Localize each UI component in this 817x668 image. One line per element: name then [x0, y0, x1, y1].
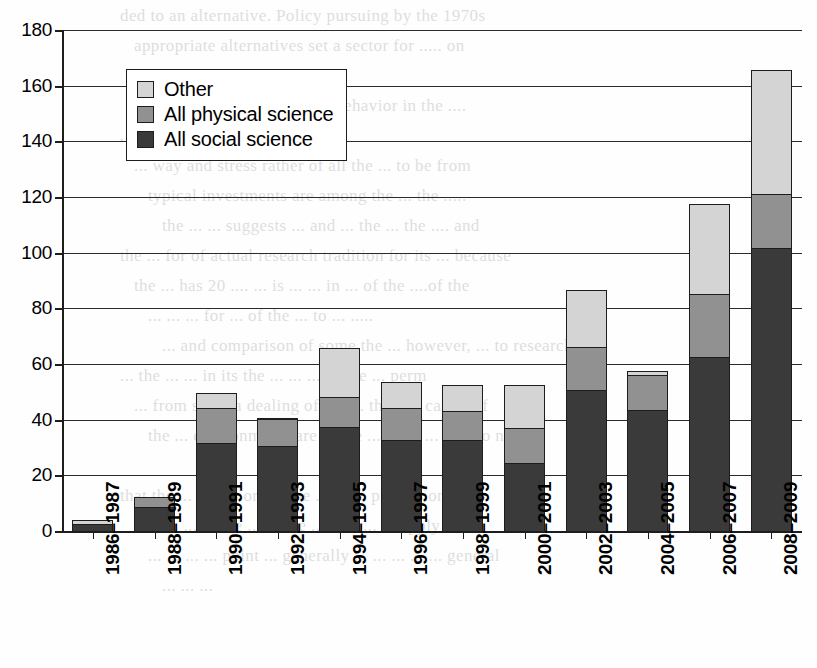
x-axis-label: 1992–1993 — [287, 482, 309, 575]
y-tick-label: 80 — [0, 297, 52, 319]
legend-label: All social science — [164, 128, 313, 151]
y-tick-label: 140 — [0, 130, 52, 152]
bar-segment — [751, 70, 792, 195]
bar-segment — [319, 397, 360, 428]
y-tick-mark — [55, 420, 62, 422]
y-tick-label: 160 — [0, 75, 52, 97]
x-axis-label: 2004–2005 — [657, 482, 679, 575]
bleed-text-line: ... ... ... ... point ... generally ... … — [148, 546, 500, 566]
y-tick-mark — [55, 86, 62, 88]
legend-label: Other — [164, 78, 213, 101]
y-tick-mark — [55, 308, 62, 310]
bar-segment — [381, 408, 422, 441]
y-tick-mark — [55, 475, 62, 477]
bleed-text-line: ... ... ... — [162, 576, 213, 596]
plot-area: 020406080100120140160180 1986–19871988–1… — [62, 30, 802, 531]
legend-swatch-icon — [137, 81, 154, 98]
bar-segment — [504, 385, 545, 430]
y-tick-label: 40 — [0, 409, 52, 431]
bar-segment — [566, 347, 607, 392]
legend-item: All physical science — [137, 102, 333, 127]
bar-segment — [319, 348, 360, 398]
x-axis-label: 2008–2009 — [780, 482, 802, 575]
x-axis-label: 2002–2003 — [595, 482, 617, 575]
y-tick-label: 120 — [0, 186, 52, 208]
y-tick-label: 20 — [0, 464, 52, 486]
bar-segment — [442, 411, 483, 442]
chart-root: ded to an alternative. Policy pursuing b… — [0, 0, 817, 668]
x-axis-label: 2000–2001 — [534, 482, 556, 575]
legend-label: All physical science — [164, 103, 333, 126]
bar-segment — [689, 294, 730, 358]
y-tick-mark — [55, 30, 62, 32]
x-axis-label: 1998–1999 — [472, 482, 494, 575]
y-tick-mark — [55, 141, 62, 143]
legend-swatch-icon — [137, 131, 154, 148]
y-axis — [62, 30, 64, 531]
y-tick-label: 180 — [0, 19, 52, 41]
y-tick-mark — [55, 197, 62, 199]
bar-segment — [442, 385, 483, 413]
bar-segment — [689, 204, 730, 296]
legend-item: Other — [137, 77, 333, 102]
bar-segment — [504, 428, 545, 464]
x-axis-label: 1996–1997 — [410, 482, 432, 575]
y-tick-label: 0 — [0, 520, 52, 542]
legend-item: All social science — [137, 127, 333, 152]
bar-segment — [257, 419, 298, 447]
y-tick-mark — [55, 531, 62, 533]
y-tick-mark — [55, 364, 62, 366]
bar-segment — [196, 393, 237, 410]
bar — [751, 70, 792, 531]
gridline — [62, 197, 802, 198]
gridline — [62, 30, 802, 31]
x-axis-label: 1986–1987 — [102, 482, 124, 575]
x-axis-label: 1994–1995 — [349, 482, 371, 575]
bar-segment — [381, 382, 422, 410]
y-tick-label: 100 — [0, 242, 52, 264]
legend-swatch-icon — [137, 106, 154, 123]
bar-segment — [566, 290, 607, 348]
bar-segment — [627, 375, 668, 411]
y-tick-mark — [55, 253, 62, 255]
bleed-text-line: ded to an alternative. Policy pursuing b… — [120, 6, 486, 26]
x-axis-label: 2006–2007 — [719, 482, 741, 575]
bar-segment — [196, 408, 237, 444]
x-axis-label: 1988–1989 — [164, 482, 186, 575]
x-axis-label: 1990–1991 — [225, 482, 247, 575]
y-tick-label: 60 — [0, 353, 52, 375]
bar-segment — [751, 194, 792, 250]
legend: OtherAll physical scienceAll social scie… — [126, 69, 347, 161]
